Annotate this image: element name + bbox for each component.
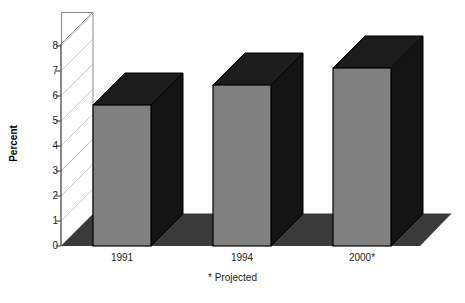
y-tick-6: 6 [40, 91, 58, 101]
bar-front-2000 [333, 68, 391, 246]
y-tick-2: 2 [40, 191, 58, 201]
bar-1991 [93, 73, 183, 246]
y-tick-5: 5 [40, 116, 58, 126]
y-tick-7: 7 [40, 66, 58, 76]
bar-side-1994 [271, 53, 303, 246]
chart-footnote: * Projected [0, 272, 465, 283]
y-tick-8: 8 [40, 41, 58, 51]
bar-front-1991 [93, 105, 151, 246]
y-axis-title: Percent [8, 114, 19, 174]
x-tick-label-1991: 1991 [77, 252, 167, 263]
y-tick-4: 4 [40, 141, 58, 151]
y-tick-1: 1 [40, 216, 58, 226]
bar-front-1994 [213, 85, 271, 246]
y-tick-0: 0 [40, 241, 58, 251]
bar-chart: 8 7 6 5 4 3 2 1 0 Percent 1991 1994 2000… [0, 0, 465, 303]
y-tick-3: 3 [40, 166, 58, 176]
bar-2000 [333, 36, 423, 246]
bar-1994 [213, 53, 303, 246]
left-depth-wall [61, 12, 93, 246]
x-tick-label-2000: 2000* [317, 252, 407, 263]
y-axis-tick-labels: 8 7 6 5 4 3 2 1 0 [30, 0, 58, 303]
bar-side-2000 [391, 36, 423, 246]
x-tick-label-1994: 1994 [197, 252, 287, 263]
